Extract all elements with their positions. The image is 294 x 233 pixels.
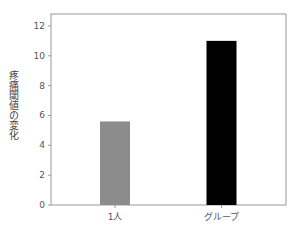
y-tick-label: 6 bbox=[39, 110, 45, 120]
y-tick-label: 12 bbox=[34, 21, 45, 31]
y-tick-label: 0 bbox=[39, 200, 45, 210]
x-category-label: 1人 bbox=[108, 212, 123, 222]
bar-1 bbox=[100, 121, 130, 205]
bar-chart: 0246810121人グループ bbox=[0, 0, 294, 233]
y-tick-label: 4 bbox=[39, 140, 45, 150]
plot-frame bbox=[51, 14, 286, 205]
y-tick-label: 8 bbox=[39, 81, 45, 91]
y-tick-label: 2 bbox=[39, 170, 45, 180]
x-category-label: グループ bbox=[204, 211, 239, 222]
y-tick-label: 10 bbox=[34, 51, 46, 61]
bar-2 bbox=[207, 41, 237, 205]
